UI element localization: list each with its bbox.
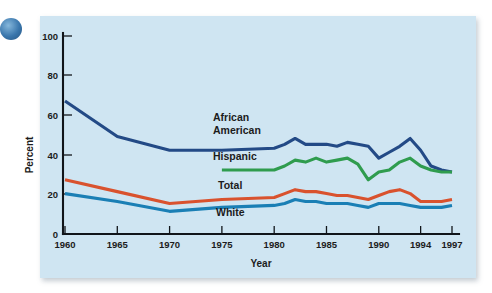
x-axis-title: Year [250,258,271,269]
x-tick-label-1985: 1985 [316,239,338,250]
y-axis-ticks [63,36,72,194]
x-tick-label-1997: 1997 [441,239,462,250]
figure-container: 100 80 60 40 20 0 Percent 19601965197019… [0,0,492,293]
x-axis-tick-labels: 196019651970197519801985199019941997 [54,239,462,250]
x-tick-label-1990: 1990 [368,239,389,250]
y-tick-label-100: 100 [42,31,58,42]
x-tick-label-1994: 1994 [410,239,432,250]
x-tick-label-1965: 1965 [107,239,129,250]
y-tick-label-20: 20 [47,189,58,200]
y-tick-label-60: 60 [47,110,58,121]
series-line-white [65,194,452,212]
series-label-american: American [213,124,261,136]
line-chart: 100 80 60 40 20 0 Percent 19601965197019… [0,0,492,293]
series-label-african: African [213,111,249,123]
x-tick-label-1980: 1980 [264,239,285,250]
series-label-white: White [216,206,245,218]
series-label-hispanic: Hispanic [213,150,257,162]
series-label-total: Total [218,179,242,191]
series-line-african-american [65,101,452,172]
x-tick-label-1970: 1970 [159,239,180,250]
y-tick-label-0: 0 [53,229,58,240]
series-line-total [65,180,452,204]
data-series-group [65,101,452,211]
y-tick-label-40: 40 [47,150,58,161]
series-inline-labels: African American Hispanic Total White [213,111,261,218]
x-axis-ticks [65,226,452,234]
y-axis-tick-labels: 100 80 60 40 20 0 [42,31,58,240]
y-tick-label-80: 80 [47,70,58,81]
x-tick-label-1960: 1960 [54,239,75,250]
y-axis-title: Percent [24,136,35,173]
x-tick-label-1975: 1975 [211,239,233,250]
